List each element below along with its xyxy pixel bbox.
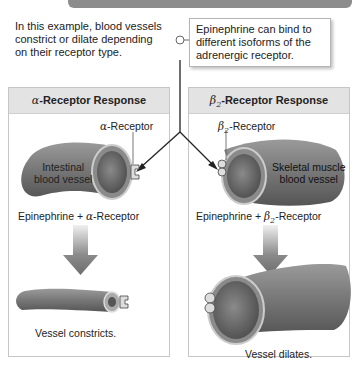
vessel-label-line1: Intestinal	[34, 161, 92, 173]
alpha-binding-label: Epinephrine + α-Receptor	[18, 210, 139, 222]
constricted-vessel-icon	[16, 289, 128, 312]
beta2-receptor-label: β2-Receptor	[218, 120, 275, 137]
alpha-receptor-label: α-Receptor	[100, 120, 153, 132]
vessel-label-line2: blood vessel	[34, 173, 92, 185]
binding-prefix: Epinephrine +	[18, 210, 86, 222]
skeletal-vessel-label: Skeletal muscle blood vessel	[272, 161, 346, 185]
vessel-label-line1: Skeletal muscle	[272, 161, 346, 173]
receptor-label-text: -Receptor	[107, 120, 153, 132]
constricts-result-label: Vessel constricts.	[35, 327, 116, 339]
down-arrow-right	[253, 225, 288, 275]
beta2-binding-label: Epinephrine + β2-Receptor	[196, 210, 321, 227]
binding-prefix: Epinephrine +	[196, 210, 264, 222]
binding-suffix: -Receptor	[93, 210, 139, 222]
vessel-label-line2: blood vessel	[272, 173, 346, 185]
connector-lines	[136, 36, 218, 172]
dilates-result-label: Vessel dilates.	[245, 348, 312, 360]
down-arrow-left	[63, 225, 98, 275]
receptor-label-text: -Receptor	[229, 120, 275, 132]
binding-suffix: -Receptor	[275, 210, 321, 222]
dilated-vessel-icon	[205, 264, 351, 344]
intestinal-vessel-label: Intestinal blood vessel	[34, 161, 92, 185]
